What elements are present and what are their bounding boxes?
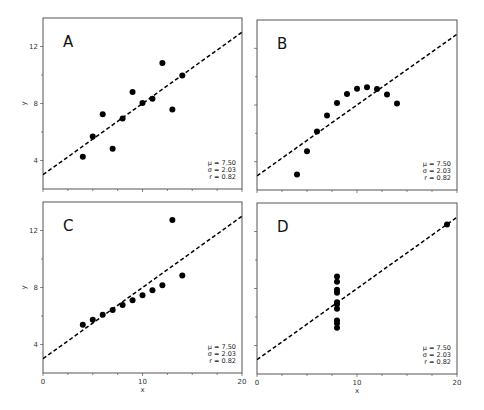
panel-label: B xyxy=(277,35,287,53)
data-point xyxy=(130,297,136,303)
data-point xyxy=(169,106,175,112)
data-point xyxy=(80,322,86,328)
stat-r: r = 0.82 xyxy=(424,358,451,366)
data-point xyxy=(384,92,390,98)
data-point xyxy=(354,86,360,92)
y-tick-label: 4 xyxy=(34,157,39,165)
data-point xyxy=(314,128,320,134)
x-tick-label: 10 xyxy=(138,378,147,386)
panel-a: 4812yAμ = 7.50σ = 2.03r = 0.82 xyxy=(20,18,242,192)
data-point xyxy=(149,287,155,293)
data-point xyxy=(334,274,340,280)
data-point xyxy=(100,111,106,117)
y-tick-label: 8 xyxy=(34,284,38,292)
data-point xyxy=(120,302,126,308)
data-point xyxy=(374,86,380,92)
data-point xyxy=(334,287,340,293)
data-point xyxy=(179,73,185,79)
data-point xyxy=(140,100,146,106)
data-point xyxy=(394,101,400,107)
data-point xyxy=(140,292,146,298)
y-axis-label: y xyxy=(20,285,28,289)
y-tick-label: 8 xyxy=(34,100,38,108)
y-axis-label: y xyxy=(20,101,28,105)
anscombe-quartet-chart: 4812yAμ = 7.50σ = 2.03r = 0.82 Bμ = 7.50… xyxy=(0,0,484,410)
data-point xyxy=(179,273,185,279)
x-tick-label: 0 xyxy=(41,378,45,386)
data-point xyxy=(90,317,96,323)
data-point xyxy=(90,134,96,140)
y-tick-label: 4 xyxy=(34,341,39,349)
panel-label: A xyxy=(63,33,74,51)
data-point xyxy=(324,112,330,118)
x-tick-label: 10 xyxy=(353,379,362,387)
data-point xyxy=(159,60,165,66)
data-point xyxy=(334,279,340,285)
panel-d: 01020xDμ = 7.50σ = 2.03r = 0.82 xyxy=(254,203,461,395)
panel-b: Bμ = 7.50σ = 2.03r = 0.82 xyxy=(254,20,457,193)
data-point xyxy=(304,148,310,154)
data-point xyxy=(334,301,340,307)
data-point xyxy=(334,100,340,106)
data-point xyxy=(110,307,116,313)
x-tick-label: 0 xyxy=(255,379,259,387)
stat-r: r = 0.82 xyxy=(209,173,236,181)
x-tick-label: 20 xyxy=(453,379,462,387)
data-point xyxy=(169,217,175,223)
x-tick-label: 20 xyxy=(238,378,247,386)
data-point xyxy=(120,115,126,121)
y-tick-label: 12 xyxy=(29,227,38,235)
x-axis-label: x xyxy=(355,387,359,395)
x-axis-label: x xyxy=(140,386,144,394)
panel-label: C xyxy=(63,217,73,235)
data-point xyxy=(334,320,340,326)
y-tick-label: 12 xyxy=(29,43,38,51)
data-point xyxy=(80,154,86,160)
data-point xyxy=(364,84,370,90)
panel-label: D xyxy=(277,218,289,236)
data-point xyxy=(294,171,300,177)
data-point xyxy=(159,282,165,288)
data-point xyxy=(149,96,155,102)
data-point xyxy=(110,146,116,152)
data-point xyxy=(100,312,106,318)
data-point xyxy=(130,89,136,95)
data-point xyxy=(444,221,450,227)
data-point xyxy=(344,91,350,97)
panel-c: 481201020yxCμ = 7.50σ = 2.03r = 0.82 xyxy=(20,202,246,394)
stat-r: r = 0.82 xyxy=(424,174,451,182)
stat-r: r = 0.82 xyxy=(209,357,236,365)
